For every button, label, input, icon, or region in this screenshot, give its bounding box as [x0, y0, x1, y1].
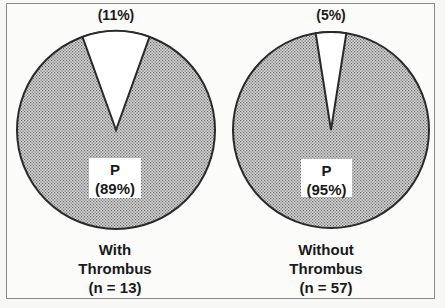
main-pct-left: (89%): [89, 179, 141, 198]
pie-charts: [0, 0, 445, 308]
caption-right-line1: Without: [289, 240, 362, 259]
caption-right-line2: Thrombus: [289, 259, 362, 278]
caption-left-line1: With: [78, 240, 151, 259]
caption-left: With Thrombus (n = 13): [78, 240, 151, 297]
main-letter-right: P: [301, 161, 352, 180]
pie-with-thrombus: [17, 31, 215, 229]
main-slice-label-right: P (95%): [301, 159, 352, 197]
main-letter-left: P: [89, 160, 141, 179]
small-slice-label-left: (11%): [98, 7, 135, 23]
main-pct-right: (95%): [301, 180, 352, 199]
caption-left-line3: (n = 13): [78, 278, 151, 297]
caption-right-line3: (n = 57): [289, 278, 362, 297]
caption-right: Without Thrombus (n = 57): [289, 240, 362, 297]
main-slice-label-left: P (89%): [89, 158, 141, 198]
caption-left-line2: Thrombus: [78, 259, 151, 278]
small-slice-label-right: (5%): [316, 7, 346, 23]
